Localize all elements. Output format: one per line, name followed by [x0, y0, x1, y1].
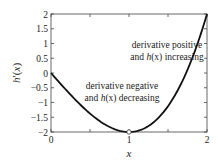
annotation-positive-line1: derivative positive — [132, 40, 202, 50]
y-tick-label: 2 — [43, 10, 48, 20]
y-tick-label: 1.5 — [36, 24, 48, 34]
annotation-positive: derivative positive and h(x) increasing — [130, 40, 204, 63]
y-tick-label: −1 — [38, 98, 48, 108]
annotation-negative-line1: derivative negative — [86, 81, 159, 91]
y-tick-label: −0.5 — [31, 83, 48, 93]
x-tick-label: 0 — [49, 135, 54, 145]
plot-border — [51, 14, 207, 132]
annotation-negative: derivative negative and h(x) decreasing — [85, 81, 160, 104]
y-tick-label: 0 — [43, 69, 48, 79]
plot-frame — [51, 14, 207, 132]
y-tick-label: −1.5 — [31, 113, 48, 123]
y-axis-ticks: 21.510.50−0.5−1−1.5−2 — [31, 10, 207, 138]
minimum-marker — [127, 130, 131, 134]
x-axis-label: x — [126, 147, 132, 159]
derivative-curve — [51, 14, 207, 132]
y-axis-label: h′(x) — [10, 63, 23, 83]
chart-canvas: 21.510.50−0.5−1−1.5−2 012 x h′(x) deriva… — [0, 0, 218, 164]
y-tick-label: −2 — [38, 128, 48, 138]
annotation-positive-line2: and h(x) increasing — [130, 52, 204, 63]
x-tick-label: 1 — [127, 135, 132, 145]
y-tick-label: 0.5 — [36, 54, 48, 64]
annotation-negative-line2: and h(x) decreasing — [85, 93, 160, 104]
x-tick-label: 2 — [205, 135, 210, 145]
y-tick-label: 1 — [43, 39, 48, 49]
x-axis-ticks: 012 — [49, 14, 210, 145]
